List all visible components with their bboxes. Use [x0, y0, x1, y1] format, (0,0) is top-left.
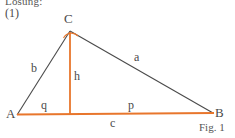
side-label-c: c	[110, 117, 115, 129]
figure-page: Lösung: (1) A B C b a c h q p Fig. 1	[0, 0, 235, 138]
vertex-label-a: A	[6, 107, 15, 120]
side-a-line	[70, 31, 213, 113]
figure-caption: Fig. 1	[199, 122, 225, 133]
vertex-label-b: B	[215, 106, 224, 119]
segment-label-q: q	[41, 99, 47, 111]
vertex-label-c: C	[64, 12, 73, 25]
side-label-b: b	[31, 62, 37, 74]
segment-label-p: p	[128, 99, 134, 111]
base-c-line	[17, 113, 214, 115]
side-label-a: a	[134, 51, 139, 63]
altitude-label-h: h	[74, 70, 80, 82]
